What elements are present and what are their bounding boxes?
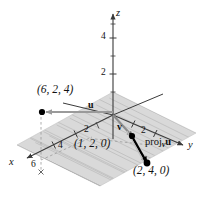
projection-operand: u: [165, 136, 171, 147]
label-point-6-2-4: (6, 2, 4): [37, 84, 73, 96]
vector-projection-figure: (6, 2, 4) (1, 2, 0) (2, 4, 0) u v projvu…: [0, 0, 202, 200]
tick-label-z-2: 2: [101, 68, 106, 78]
tick-label-plane-right-2: 2: [141, 126, 146, 136]
projection-text: proj: [145, 136, 162, 147]
point-6-2-4: [39, 109, 45, 115]
label-vector-u: u: [88, 100, 94, 110]
label-vector-v: v: [117, 122, 122, 132]
drop-foot-marker: [39, 170, 44, 175]
tick-label-x-4: 4: [58, 141, 63, 151]
label-point-1-2-0: (1, 2, 0): [74, 138, 110, 150]
label-projection: projvu: [145, 137, 171, 149]
label-y-axis: y: [188, 140, 193, 151]
point-v-tip: [129, 133, 135, 139]
label-point-2-4-0: (2, 4, 0): [133, 165, 169, 177]
label-x-axis: x: [9, 157, 14, 168]
label-z-axis: z: [116, 8, 120, 19]
tick-label-plane-left-2: 2: [84, 125, 89, 135]
figure-canvas: [0, 0, 202, 200]
tick-label-x-6: 6: [31, 160, 36, 170]
tick-label-z-4: 4: [101, 32, 106, 42]
